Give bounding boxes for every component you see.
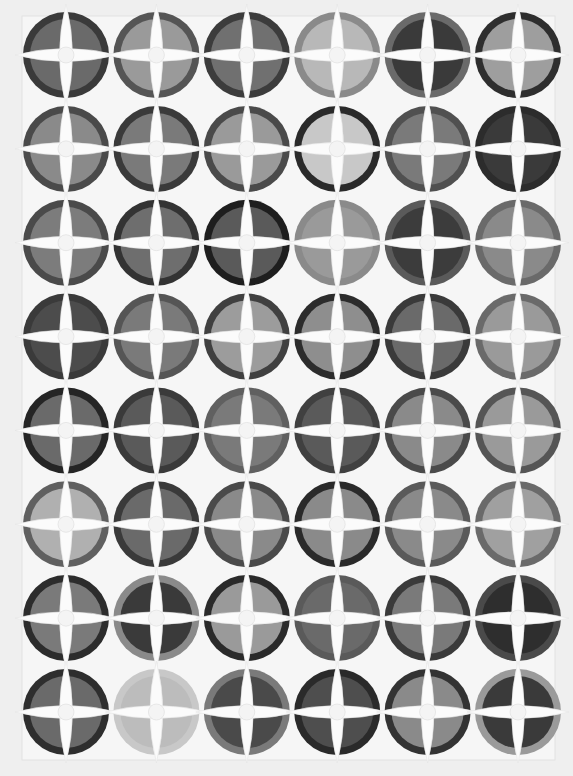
block-center	[329, 422, 345, 438]
block-center	[148, 516, 164, 532]
block-center	[420, 610, 436, 626]
block-center	[510, 329, 526, 345]
block-center	[58, 704, 74, 720]
block-center	[239, 47, 255, 63]
block-center	[420, 704, 436, 720]
block-center	[148, 610, 164, 626]
block-center	[329, 704, 345, 720]
block-center	[239, 235, 255, 251]
block-center	[58, 610, 74, 626]
block-center	[510, 422, 526, 438]
block-center	[420, 422, 436, 438]
block-center	[510, 610, 526, 626]
block-center	[58, 47, 74, 63]
block-center	[420, 329, 436, 345]
block-center	[420, 516, 436, 532]
block-center	[148, 141, 164, 157]
block-center	[148, 47, 164, 63]
block-center	[58, 141, 74, 157]
block-center	[239, 610, 255, 626]
block-center	[420, 47, 436, 63]
block-center	[148, 422, 164, 438]
block-center	[510, 141, 526, 157]
block-center	[239, 704, 255, 720]
block-center	[329, 610, 345, 626]
block-center	[329, 235, 345, 251]
quilt-photo	[0, 0, 573, 776]
block-center	[329, 329, 345, 345]
block-center	[148, 329, 164, 345]
quilt-canvas	[0, 0, 573, 776]
block-center	[420, 235, 436, 251]
block-center	[510, 704, 526, 720]
block-center	[329, 47, 345, 63]
block-center	[510, 47, 526, 63]
block-center	[239, 422, 255, 438]
block-center	[510, 235, 526, 251]
block-center	[148, 704, 164, 720]
block-center	[420, 141, 436, 157]
block-center	[239, 141, 255, 157]
block-center	[329, 516, 345, 532]
block-center	[148, 235, 164, 251]
block-center	[58, 329, 74, 345]
block-center	[329, 141, 345, 157]
block-center	[58, 422, 74, 438]
block-center	[510, 516, 526, 532]
block-center	[58, 235, 74, 251]
block-center	[239, 329, 255, 345]
block-center	[239, 516, 255, 532]
block-center	[58, 516, 74, 532]
